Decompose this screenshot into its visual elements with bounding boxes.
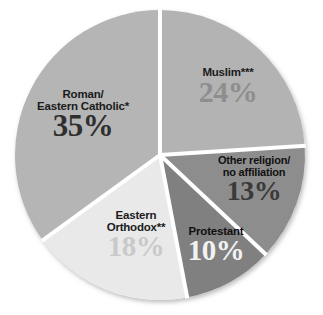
slice-label-eastern-orthodox: Eastern Orthodox** 18%	[84, 209, 188, 262]
slice-value-other-religion: 13%	[196, 176, 312, 206]
slice-value-roman-eastern-catholic: 35%	[18, 110, 148, 143]
slice-label-roman-eastern-catholic: Roman/ Eastern Catholic* 35%	[18, 88, 148, 143]
pie-chart: Muslim*** 24% Other religion/ no affilia…	[0, 0, 323, 315]
slice-value-eastern-orthodox: 18%	[84, 231, 188, 262]
slice-label-other-religion: Other religion/ no affiliation 13%	[196, 155, 312, 206]
slice-label-muslim: Muslim*** 24%	[176, 66, 280, 108]
slice-value-muslim: 24%	[176, 76, 280, 108]
